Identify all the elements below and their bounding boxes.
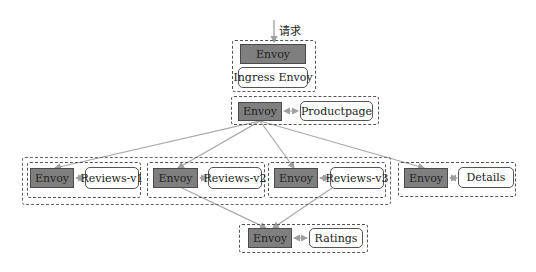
reviews-v1-service[interactable]: Reviews-v1 — [85, 167, 139, 189]
ingress-envoy-service[interactable]: Ingress Envoy — [238, 67, 308, 88]
ratings-envoy-proxy[interactable]: Envoy — [248, 228, 292, 248]
productpage-envoy-proxy[interactable]: Envoy — [238, 102, 282, 121]
details-service[interactable]: Details — [458, 167, 514, 188]
reviews-v3-service[interactable]: Reviews-v3 — [330, 167, 384, 189]
reviews-v1-envoy-proxy[interactable]: Envoy — [30, 168, 74, 188]
details-envoy-proxy[interactable]: Envoy — [404, 168, 448, 188]
entry-request-label: 请求 — [279, 22, 301, 38]
reviews-v2-envoy-proxy[interactable]: Envoy — [153, 168, 198, 188]
ratings-service[interactable]: Ratings — [309, 228, 363, 248]
ingress-envoy-proxy[interactable]: Envoy — [240, 44, 306, 64]
productpage-service[interactable]: Productpage — [300, 101, 373, 121]
reviews-v3-envoy-proxy[interactable]: Envoy — [274, 168, 318, 188]
reviews-v2-service[interactable]: Reviews-v2 — [208, 167, 262, 189]
